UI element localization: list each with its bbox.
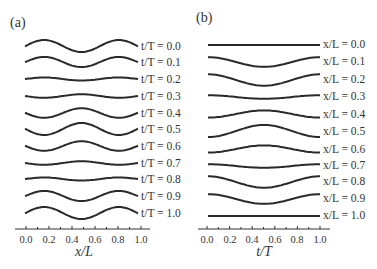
series-curve: [208, 125, 320, 137]
x-axis-label: t/T: [256, 244, 273, 259]
panel-a-curves: [25, 40, 138, 219]
row-label: t/T = 0.2: [141, 73, 181, 85]
tick-label: 0.0: [19, 234, 32, 245]
series-curve: [25, 191, 138, 201]
series-curve: [208, 57, 320, 67]
row-label: t/T = 1.0: [141, 207, 181, 219]
tick-label: 0.2: [223, 234, 236, 245]
panel-a-tag: (a): [10, 15, 26, 31]
row-label: x/L = 0.8: [323, 175, 365, 187]
tick-label: 0.8: [111, 234, 124, 245]
panel-a-row-labels: t/T = 0.0 t/T = 0.1 t/T = 0.2 t/T = 0.3 …: [141, 40, 181, 219]
series-curve: [25, 78, 138, 81]
series-curve: [208, 145, 320, 152]
series-curve: [25, 141, 138, 151]
tick-label: 0.0: [200, 234, 213, 245]
row-label: t/T = 0.7: [141, 157, 181, 169]
panel-b: (b) x/L = 0.0 x/L = 0.1 x/L = 0.2 x/L = …: [196, 10, 365, 259]
series-curve: [25, 207, 138, 219]
series-curve: [25, 40, 138, 52]
series-curve: [25, 123, 138, 135]
row-label: x/L = 0.5: [323, 125, 365, 137]
row-label: x/L = 0.4: [323, 108, 365, 120]
tick-label: 1.0: [313, 234, 326, 245]
tick-label: 1.0: [134, 234, 147, 245]
series-curve: [208, 176, 320, 187]
row-label: t/T = 0.9: [141, 190, 181, 202]
panel-b-row-labels: x/L = 0.0 x/L = 0.1 x/L = 0.2 x/L = 0.3 …: [323, 38, 365, 221]
series-curve: [25, 94, 138, 98]
row-label: t/T = 0.3: [141, 90, 181, 102]
series-curve: [25, 57, 138, 67]
row-label: t/T = 0.5: [141, 123, 181, 135]
row-label: x/L = 0.1: [323, 55, 365, 67]
row-label: x/L = 0.2: [323, 73, 365, 85]
tick-label: 0.2: [42, 234, 55, 245]
tick-label: 0.8: [290, 234, 303, 245]
row-label: x/L = 0.6: [323, 143, 365, 155]
row-label: t/T = 0.1: [141, 56, 181, 68]
row-label: t/T = 0.0: [141, 40, 181, 52]
series-curve: [25, 178, 138, 181]
series-curve: [208, 95, 320, 99]
row-label: x/L = 0.0: [323, 38, 365, 50]
row-label: x/L = 0.7: [323, 159, 365, 171]
panel-a: (a) t/T = 0.0 t/T = 0.1 t/T = 0.2 t/T = …: [10, 15, 181, 259]
row-label: t/T = 0.4: [141, 107, 181, 119]
row-label: t/T = 0.8: [141, 173, 181, 185]
panel-b-tag: (b): [196, 10, 213, 26]
row-label: x/L = 1.0: [323, 209, 365, 221]
x-axis-label: x/L: [74, 244, 93, 259]
series-curve: [208, 110, 320, 117]
series-curve: [208, 74, 320, 85]
series-curve: [208, 164, 320, 168]
row-label: x/L = 0.3: [323, 90, 365, 102]
row-label: x/L = 0.9: [323, 192, 365, 204]
panel-b-curves: [208, 45, 320, 216]
figure: (a) t/T = 0.0 t/T = 0.1 t/T = 0.2 t/T = …: [0, 0, 377, 269]
row-label: t/T = 0.6: [141, 140, 181, 152]
series-curve: [25, 108, 138, 118]
series-curve: [208, 194, 320, 204]
series-curve: [25, 161, 138, 165]
